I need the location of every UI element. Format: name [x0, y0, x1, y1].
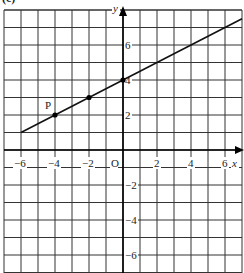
x-tick-label: −6: [14, 157, 26, 169]
point-label: P: [45, 99, 51, 111]
y-tick-label: −6: [125, 249, 137, 261]
y-tick-label: −2: [125, 179, 137, 191]
plotted-point: [120, 77, 125, 82]
x-tick-label: −2: [82, 157, 94, 169]
x-tick-label: 4: [188, 157, 194, 169]
x-tick-label: 2: [154, 157, 160, 169]
y-tick-label: 6: [125, 39, 131, 51]
origin-label: O: [111, 157, 119, 169]
y-tick-label: 2: [125, 109, 131, 121]
x-axis-arrow-icon: [235, 146, 244, 154]
y-tick-label: −4: [125, 214, 137, 226]
plotted-point: [52, 112, 57, 117]
y-axis-arrow-icon: [119, 6, 127, 16]
header-fragment: (c): [2, 0, 15, 6]
y-axis-label: y: [112, 2, 118, 14]
x-tick-label: 6: [222, 157, 228, 169]
x-tick-label: −4: [48, 157, 60, 169]
plotted-point: [86, 95, 91, 100]
x-axis-label: x: [231, 157, 237, 169]
coordinate-grid: −6−4−2246642−2−4−6OxyP: [0, 0, 244, 273]
